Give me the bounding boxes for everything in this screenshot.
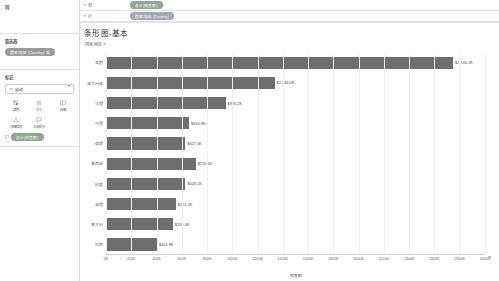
- marks-button-size[interactable]: 大小: [28, 99, 50, 112]
- marks-buttons-grid: 颜色 大小: [5, 99, 74, 129]
- gridline: [384, 53, 385, 255]
- chevron-down-icon[interactable]: [68, 87, 70, 91]
- marks-button-color[interactable]: 颜色: [5, 99, 27, 112]
- shelf-pill-country[interactable]: 国家/地区 (Country): [130, 12, 174, 20]
- x-axis-tick-label: 400K: [152, 257, 161, 261]
- bar[interactable]: [106, 198, 176, 210]
- marks-button-label[interactable]: 标签: [52, 99, 74, 112]
- gridline: [308, 53, 309, 255]
- x-axis-tick-label: 2000K: [353, 257, 364, 261]
- shelf-pill-sales[interactable]: 总计(销售额): [130, 1, 163, 9]
- filter-pill-country[interactable]: 国家/地区 (Country): 美: [5, 48, 55, 56]
- x-axis-tick-label: 0K: [104, 257, 109, 261]
- bar[interactable]: [106, 137, 185, 149]
- bar-row[interactable]: $946.2K: [106, 97, 485, 109]
- bar-row[interactable]: $710.1K: [106, 158, 485, 170]
- row-field-header[interactable]: 国家/地区 ⇅: [80, 38, 499, 47]
- filters-section: 筛选器 国家/地区 (Country): 美: [0, 34, 79, 70]
- plot-area: $2,746.1K$1,334.2K$946.2K$656.9K$627.1K$…: [106, 53, 485, 255]
- marks-section-title: 标记: [5, 74, 74, 80]
- gridline: [157, 53, 158, 255]
- bar-row[interactable]: $528.4K: [106, 218, 485, 230]
- gridline: [182, 53, 183, 255]
- marks-pill-row: 总计(销售额): [5, 133, 74, 141]
- bar[interactable]: [106, 117, 189, 129]
- scroll-indicator[interactable]: [488, 256, 491, 259]
- bar-row[interactable]: $656.9K: [106, 117, 485, 129]
- x-axis-tick-label: 1200K: [252, 257, 263, 261]
- marks-button-tooltip[interactable]: 工具提示: [28, 116, 50, 129]
- marks-pill-sales[interactable]: 总计(销售额): [11, 133, 44, 141]
- marks-button-label-label: 标签: [60, 107, 66, 112]
- columns-shelf-text: 列: [88, 2, 92, 8]
- bar-value-label: $2,746.1K: [455, 60, 473, 65]
- x-axis-tick-label: 1400K: [278, 257, 289, 261]
- x-axis-tick-label: 2800K: [454, 257, 465, 261]
- rows-shelf-label: ▾ 行: [84, 13, 108, 19]
- bar-row[interactable]: $628.1K: [106, 178, 485, 190]
- gridline: [283, 53, 284, 255]
- tooltip-icon: [35, 116, 44, 123]
- bar-value-label: $1,334.2K: [277, 80, 295, 85]
- bar-row[interactable]: $402.9K: [106, 238, 485, 250]
- row-field-header-label: 国家/地区: [85, 41, 102, 47]
- marks-button-detail[interactable]: 详细信息: [5, 116, 27, 129]
- rows-shelf-text: 行: [88, 13, 92, 19]
- bar-value-label: $946.2K: [228, 101, 243, 106]
- columns-shelf-label: ▾ 列: [84, 2, 108, 8]
- gridline: [409, 53, 410, 255]
- bar[interactable]: [106, 178, 185, 190]
- columns-shelf-field: 总计(销售额): [108, 1, 499, 9]
- y-axis-tick-label: 美国: [95, 59, 103, 65]
- rows-shelf-field: 国家/地区 (Country): [108, 12, 499, 20]
- columns-section-title: 列: [5, 4, 74, 10]
- marks-button-size-label: 大小: [36, 107, 42, 112]
- gridline: [434, 53, 435, 255]
- x-axis-title: 销售额: [106, 272, 485, 278]
- measure-icon: [5, 135, 9, 139]
- gridline: [207, 53, 208, 255]
- bar-row[interactable]: $2,746.1K: [106, 57, 485, 69]
- sort-descending-icon[interactable]: ⇅: [103, 42, 106, 46]
- bar-row[interactable]: $627.1K: [106, 137, 485, 149]
- label-icon: [58, 99, 67, 106]
- chevron-down-icon: ▾: [84, 3, 86, 7]
- chevron-down-icon: ▾: [84, 14, 86, 18]
- bar-value-label: $552.4K: [178, 202, 193, 207]
- x-axis-tick-label: 1600K: [303, 257, 314, 261]
- gridline: [232, 53, 233, 255]
- gridline: [333, 53, 334, 255]
- columns-shelf[interactable]: ▾ 列 总计(销售额): [80, 0, 499, 11]
- y-axis-tick-label: 德国: [95, 140, 103, 146]
- bar[interactable]: [106, 218, 173, 230]
- bar[interactable]: [106, 57, 453, 69]
- columns-section: 列: [0, 0, 79, 34]
- y-axis-tick-label: 法国: [95, 100, 103, 106]
- marks-button-color-label: 颜色: [13, 107, 19, 112]
- x-axis-tick-label: 1000K: [227, 257, 238, 261]
- x-axis: 0K200K400K600K800K1000K1200K1400K1600K18…: [106, 254, 485, 267]
- x-axis-tick-label: 2400K: [404, 257, 415, 261]
- x-axis-tick-label: 2600K: [429, 257, 440, 261]
- x-axis-tick-label: 2200K: [379, 257, 390, 261]
- marks-button-detail-label: 详细信息: [10, 124, 22, 129]
- rows-shelf[interactable]: ▾ 行 国家/地区 (Country): [80, 11, 499, 22]
- x-axis-tick-label: 200K: [127, 257, 136, 261]
- y-axis-tick-label: 英国: [95, 201, 103, 207]
- gridline: [131, 53, 132, 255]
- x-axis-tick-label: 1800K: [328, 257, 339, 261]
- bar-value-label: $402.9K: [159, 242, 174, 247]
- page-title: 条形图-基本: [80, 23, 499, 38]
- x-axis-tick-label: 800K: [203, 257, 212, 261]
- worksheet-canvas: 条形图-基本 国家/地区 ⇅ 美国澳大利亚法国中国德国墨西哥印度英国意大利巴西 …: [80, 22, 499, 281]
- gridline: [106, 53, 107, 255]
- bar-row[interactable]: $1,334.2K: [106, 77, 485, 89]
- bar-row[interactable]: $552.4K: [106, 198, 485, 210]
- gridline: [359, 53, 360, 255]
- main-area: ▾ 列 总计(销售额) ▾ 行 国家/地区 (Country) 条形图-基本 国…: [80, 0, 499, 281]
- bar-value-label: $656.9K: [191, 121, 206, 126]
- mark-type-value: 自动: [15, 86, 66, 92]
- mark-type-select[interactable]: 自动: [5, 84, 74, 94]
- bar-value-label: $710.1K: [198, 161, 213, 166]
- gridline: [460, 53, 461, 255]
